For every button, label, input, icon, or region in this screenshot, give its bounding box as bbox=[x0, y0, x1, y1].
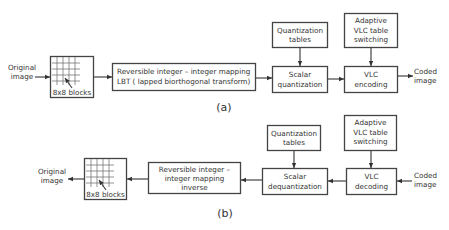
encoder-output-label-line2: image bbox=[414, 76, 437, 85]
decoder-quant-tables-label-line1: Quantization bbox=[271, 129, 317, 138]
encoder-adaptive-vlc-label-line2: VLC table bbox=[354, 26, 389, 35]
decoder-scalar-dequant-label-line2: dequantization bbox=[268, 182, 322, 191]
encoder-adaptive-vlc-box: Adaptive VLC table switching bbox=[345, 14, 398, 48]
encoder-scalar-quant-label-line2: quantization bbox=[278, 80, 323, 89]
decoder-adaptive-vlc-box: Adaptive VLC table switching bbox=[345, 116, 397, 151]
decoder-vlc-box: VLC decoding bbox=[347, 169, 397, 195]
encoder-blocks-label: 8x8 blocks bbox=[53, 88, 92, 97]
decoder-caption: (b) bbox=[217, 207, 233, 220]
encoder-transform-label-line2: LBT ( lapped biorthogonal transform) bbox=[117, 77, 251, 86]
encoder-input-label-line2: image bbox=[11, 72, 34, 81]
decoder-transform-label-line1: Reversible integer – bbox=[159, 165, 231, 174]
decoder-blocks-label: 8x8 blocks bbox=[86, 190, 125, 199]
encoder-scalar-quant-label-line1: Scalar bbox=[289, 70, 311, 79]
decoder-vlc-label-line1: VLC bbox=[365, 172, 379, 181]
decoder-adaptive-vlc-label-line1: Adaptive bbox=[355, 118, 387, 127]
decoder-transform-label-line3: inverse bbox=[181, 183, 208, 192]
encoder-output-label-line1: Coded bbox=[414, 67, 437, 76]
encoder-transform-box: Reversible integer – integer mapping LBT… bbox=[113, 64, 256, 91]
encoder-blocks-box: 8x8 blocks bbox=[51, 57, 94, 98]
decoder-transform-label-line2: integer mapping bbox=[165, 174, 225, 183]
decoder-diagram: Original image 8x8 blocks Reversible int… bbox=[38, 116, 437, 221]
decoder-quant-tables-box: Quantization tables bbox=[268, 126, 321, 151]
decoder-output-label-line1: Original bbox=[38, 167, 66, 176]
encoder-vlc-box: VLC encoding bbox=[345, 67, 398, 93]
codec-diagram: Original image 8x8 blocks Reversible int… bbox=[0, 0, 449, 230]
encoder-diagram: Original image 8x8 blocks Reversible int… bbox=[8, 14, 437, 115]
encoder-input-label-line1: Original bbox=[8, 63, 36, 72]
encoder-quant-tables-label-line1: Quantization bbox=[277, 26, 323, 35]
encoder-quant-tables-label-line2: tables bbox=[289, 35, 311, 44]
decoder-adaptive-vlc-label-line3: switching bbox=[353, 137, 387, 146]
decoder-scalar-dequant-box: Scalar dequantization bbox=[263, 169, 328, 195]
decoder-output-label-line2: image bbox=[41, 176, 64, 185]
decoder-blocks-box: 8x8 blocks bbox=[85, 159, 127, 200]
encoder-adaptive-vlc-label-line1: Adaptive bbox=[355, 16, 387, 25]
decoder-quant-tables-label-line2: tables bbox=[283, 138, 305, 147]
encoder-scalar-quant-box: Scalar quantization bbox=[273, 67, 328, 93]
encoder-transform-label-line1: Reversible integer – integer mapping bbox=[117, 67, 250, 76]
encoder-vlc-label-line1: VLC bbox=[364, 70, 378, 79]
decoder-transform-box: Reversible integer – integer mapping inv… bbox=[149, 163, 241, 194]
encoder-quant-tables-box: Quantization tables bbox=[273, 23, 328, 48]
decoder-scalar-dequant-label-line1: Scalar bbox=[284, 172, 306, 181]
encoder-vlc-label-line2: encoding bbox=[354, 80, 387, 89]
decoder-input-label-line1: Coded bbox=[414, 171, 437, 180]
decoder-adaptive-vlc-label-line2: VLC table bbox=[353, 128, 388, 137]
decoder-vlc-label-line2: decoding bbox=[355, 182, 388, 191]
encoder-adaptive-vlc-label-line3: switching bbox=[354, 35, 388, 44]
encoder-caption: (a) bbox=[216, 101, 231, 114]
decoder-input-label-line2: image bbox=[414, 180, 437, 189]
